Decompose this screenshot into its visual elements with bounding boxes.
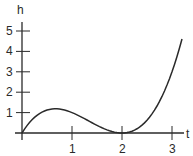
- y-ticks: 12345: [6, 24, 30, 120]
- x-axis: t: [15, 127, 190, 141]
- y-tick-label: 2: [6, 85, 13, 99]
- x-tick-label: 2: [119, 142, 126, 156]
- x-tick-label: 3: [169, 142, 176, 156]
- curve-h-of-t: [22, 39, 182, 133]
- x-tick-label: 1: [69, 142, 76, 156]
- x-axis-label: t: [186, 127, 190, 141]
- x-ticks: 123: [69, 126, 176, 156]
- y-tick-label: 3: [6, 65, 13, 79]
- y-axis-label: h: [17, 3, 24, 17]
- chart: h t 12345 123: [0, 0, 193, 156]
- y-tick-label: 5: [6, 24, 13, 38]
- y-tick-label: 1: [6, 106, 13, 120]
- y-tick-label: 4: [6, 44, 13, 58]
